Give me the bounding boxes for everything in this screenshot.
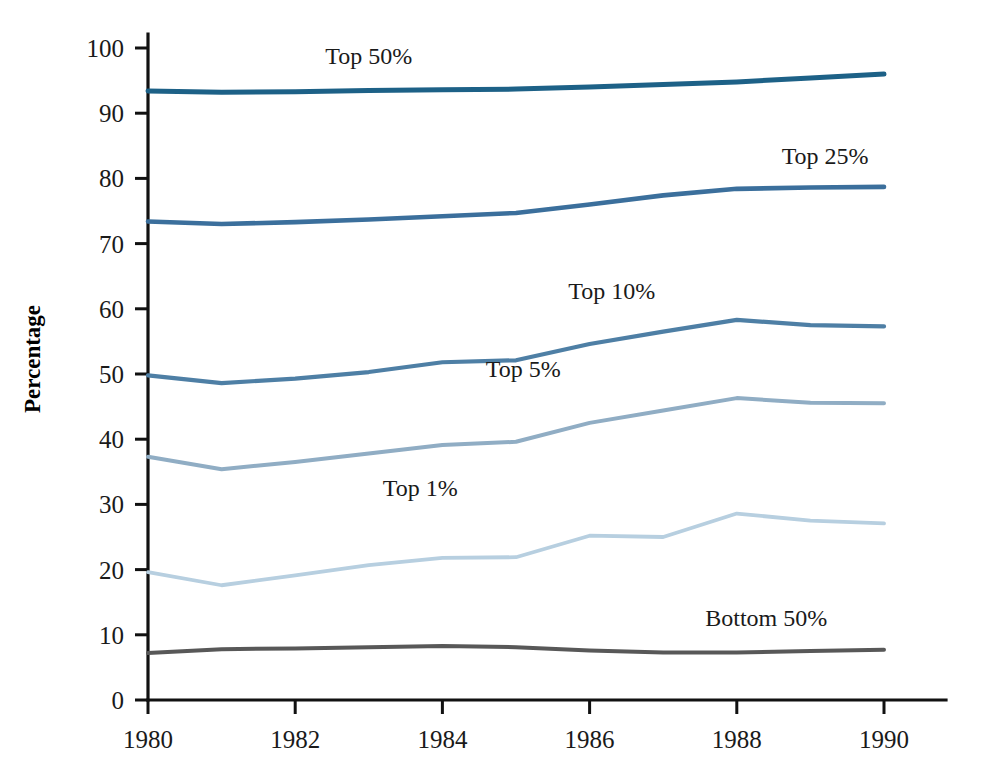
series-label-top-25: Top 25% — [782, 143, 869, 169]
y-tick-label: 70 — [99, 231, 124, 258]
x-tick-label: 1982 — [270, 726, 320, 753]
y-tick-label: 10 — [99, 622, 124, 649]
x-tick-label: 1986 — [565, 726, 615, 753]
y-axis-title: Percentage — [20, 305, 45, 413]
axis-titles: Percentage — [20, 305, 45, 413]
series-label-bottom-50: Bottom 50% — [705, 605, 827, 631]
series-label-top-50: Top 50% — [325, 43, 412, 69]
y-tick-label: 0 — [112, 687, 125, 714]
y-tick-label: 80 — [99, 165, 124, 192]
y-tick-label: 60 — [99, 296, 124, 323]
x-tick-label: 1984 — [417, 726, 468, 753]
series-line-top-5 — [148, 398, 884, 469]
series-label-top-10: Top 10% — [568, 278, 655, 304]
series-line-top-1 — [148, 514, 884, 586]
y-tick-label: 50 — [99, 361, 124, 388]
x-tick-label: 1990 — [859, 726, 909, 753]
x-tick-label: 1988 — [712, 726, 762, 753]
series-line-top-25 — [148, 187, 884, 224]
axes: 0102030405060708090100198019821984198619… — [87, 34, 947, 753]
x-tick-label: 1980 — [123, 726, 173, 753]
series-line-bottom-50 — [148, 646, 884, 653]
series-label-top-5: Top 5% — [486, 356, 561, 382]
series-label-top-1: Top 1% — [383, 475, 458, 501]
chart-container: 0102030405060708090100198019821984198619… — [0, 0, 984, 779]
series-line-top-50 — [148, 74, 884, 92]
series-labels: Top 50%Top 25%Top 10%Top 5%Top 1%Bottom … — [325, 43, 868, 630]
y-tick-label: 30 — [99, 491, 124, 518]
line-chart: 0102030405060708090100198019821984198619… — [0, 0, 984, 779]
y-tick-label: 20 — [99, 557, 124, 584]
y-tick-label: 90 — [99, 100, 124, 127]
y-tick-label: 40 — [99, 426, 124, 453]
y-tick-label: 100 — [87, 35, 125, 62]
